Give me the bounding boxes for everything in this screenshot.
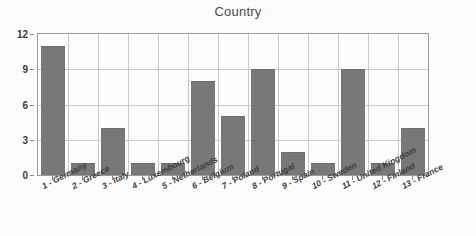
bars-layer	[38, 34, 428, 175]
y-tick-label: 9	[22, 64, 28, 75]
y-tick-mark	[30, 140, 34, 141]
bar[interactable]	[41, 46, 65, 175]
y-axis: 036912	[0, 33, 34, 176]
plot-area	[37, 33, 429, 176]
chart-title: Country	[0, 4, 476, 19]
x-axis-labels: 1 - Germany2 - Greece3 - Italy4 - Luxemb…	[0, 176, 476, 236]
y-tick-label: 6	[22, 99, 28, 110]
y-tick-label: 3	[22, 134, 28, 145]
y-tick-mark	[30, 69, 34, 70]
y-tick-mark	[30, 105, 34, 106]
bar[interactable]	[251, 69, 275, 175]
bar-chart: Country 036912 1 - Germany2 - Greece3 - …	[0, 0, 476, 236]
y-tick-mark	[30, 34, 34, 35]
y-tick-label: 12	[17, 29, 28, 40]
